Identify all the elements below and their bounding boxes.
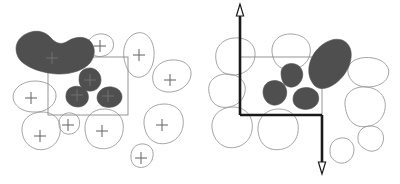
filled-blob — [281, 63, 303, 87]
figure-root — [0, 0, 400, 184]
filled-blob — [97, 87, 122, 108]
filled-blob — [293, 88, 319, 110]
blob-covering-diagram — [0, 0, 400, 184]
figure-background — [0, 0, 400, 184]
filled-blob — [263, 81, 287, 106]
